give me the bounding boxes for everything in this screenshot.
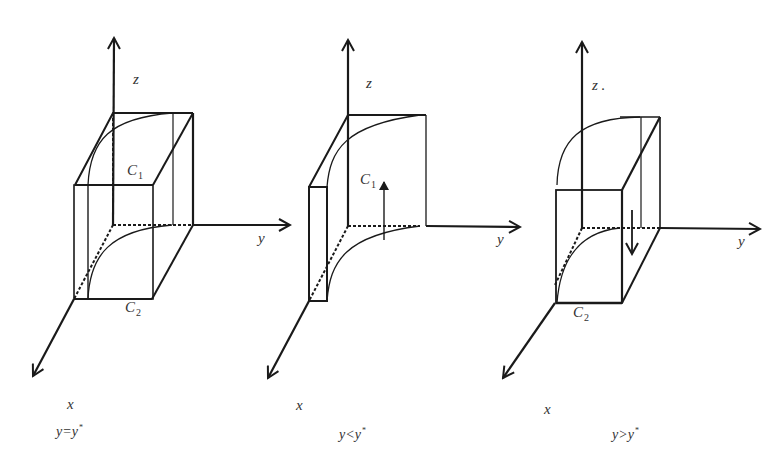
x-axis xyxy=(503,303,555,378)
axes xyxy=(33,38,290,376)
curve-label-c1: C1 xyxy=(127,163,143,178)
z-axis-label: z xyxy=(133,72,139,87)
velocity-profile-curves xyxy=(557,117,640,303)
curve-c1 xyxy=(557,117,640,185)
y-axis xyxy=(660,228,760,229)
z-axis-label: z xyxy=(366,76,372,91)
hidden-edges xyxy=(74,113,193,299)
curve-label-c1: C1 xyxy=(360,172,376,187)
curve-label-c2: C2 xyxy=(573,305,589,320)
x-axis xyxy=(33,299,74,376)
x-axis xyxy=(268,301,309,378)
caption-equal: y=y* xyxy=(56,425,83,439)
curve-label-c2: C2 xyxy=(125,300,141,315)
x-axis-label: x xyxy=(296,398,303,413)
panel-greater xyxy=(503,42,760,378)
axes xyxy=(268,40,520,378)
y-axis-label: y xyxy=(497,232,504,247)
z-axis xyxy=(113,38,114,225)
y-axis-label: y xyxy=(258,231,265,246)
y-axis xyxy=(426,226,520,227)
curve-c2 xyxy=(88,225,172,299)
curve-c2 xyxy=(557,228,620,303)
hidden-edges xyxy=(309,115,420,301)
velocity-profile-curves xyxy=(88,113,172,299)
y-axis-label: y xyxy=(738,234,745,249)
hidden-edges xyxy=(555,135,660,285)
z-axis-label: z . xyxy=(592,78,605,93)
x-axis-label: x xyxy=(67,397,74,412)
x-axis-label: x xyxy=(544,402,551,417)
curve-c2 xyxy=(327,226,420,301)
control-volume-box xyxy=(309,115,426,301)
control-volume-box xyxy=(74,113,193,299)
caption-greater: y>y* xyxy=(612,428,639,442)
caption-less: y<y* xyxy=(339,428,366,442)
velocity-profile-curves xyxy=(327,115,420,301)
control-volume-box xyxy=(556,117,660,303)
panel-less xyxy=(268,40,520,378)
panel-equal xyxy=(33,38,290,376)
diagram-canvas xyxy=(0,0,781,475)
